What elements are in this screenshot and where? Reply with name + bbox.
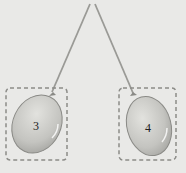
balloon-diagram: [0, 0, 186, 173]
balloon-label-4: 4: [145, 121, 151, 136]
strings: [52, 4, 133, 93]
balloon-label-3: 3: [33, 119, 39, 134]
